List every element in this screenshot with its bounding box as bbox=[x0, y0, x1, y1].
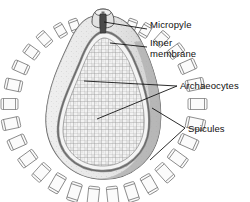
micropyle-opening bbox=[100, 14, 107, 33]
label-spicules: Spicules bbox=[188, 124, 225, 135]
gemmule-diagram: Micropyle Inner membrane Archaeocytes Sp… bbox=[0, 0, 250, 202]
label-archaeocytes: Archaeocytes bbox=[180, 81, 239, 92]
label-micropyle: Micropyle bbox=[150, 20, 192, 31]
label-inner-membrane-line1: Inner bbox=[150, 38, 172, 49]
diagram-canvas bbox=[0, 0, 250, 202]
label-inner-membrane-line2: membrane bbox=[150, 49, 196, 60]
